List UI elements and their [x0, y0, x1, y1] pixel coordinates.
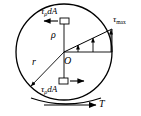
element-dA-upper [60, 18, 69, 24]
label-center-O: O [64, 56, 71, 66]
label-tau-rho-dA-top: τρdA [41, 7, 57, 17]
torsion-shear-stress-diagram: τρdA τρdA τmax ρ r O T [0, 0, 141, 116]
dA-text-bottom: dA [47, 84, 57, 94]
label-torque-T: T [99, 99, 105, 109]
tau-max-subscript: max [116, 19, 126, 25]
label-tau-max: τmax [113, 15, 126, 25]
stress-distribution-hypotenuse [64, 29, 112, 52]
label-rho: ρ [51, 30, 56, 40]
label-tau-rho-dA-bottom: τρdA [41, 85, 57, 95]
dA-text-top: dA [47, 6, 57, 16]
element-dA-lower [59, 78, 68, 84]
torque-arc [31, 98, 101, 104]
label-radius-r: r [32, 57, 36, 67]
